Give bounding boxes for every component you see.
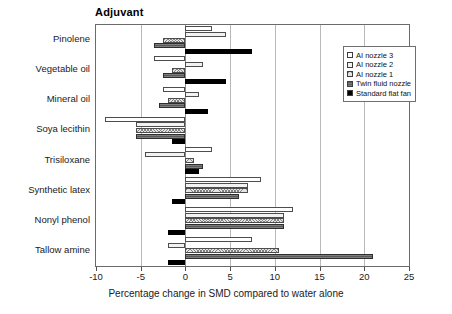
x-axis-tick-label: -10 [89, 271, 103, 282]
bar [185, 207, 292, 212]
chart-title: Adjuvant [95, 6, 144, 18]
bar [172, 68, 185, 73]
bar [185, 213, 283, 218]
legend-item: Standard flat fan [347, 89, 411, 98]
bar [136, 128, 185, 133]
legend: AI nozzle 3AI nozzle 2AI nozzle 1Twin fl… [343, 46, 416, 102]
bar [185, 32, 225, 37]
y-axis-label: Nonyl phenol [35, 214, 90, 225]
bar [185, 62, 203, 67]
bar [172, 199, 185, 204]
bar [185, 109, 207, 114]
x-axis-tick-label: 25 [404, 271, 415, 282]
bar [163, 73, 185, 78]
legend-item: AI nozzle 3 [347, 51, 411, 60]
legend-swatch-icon [347, 62, 353, 68]
bar [185, 177, 261, 182]
y-axis-label: Soya lecithin [36, 123, 90, 134]
bar [172, 139, 185, 144]
bar [154, 43, 185, 48]
legend-label: AI nozzle 2 [356, 60, 393, 69]
legend-swatch-icon [347, 71, 353, 77]
x-axis-tick-label: 0 [183, 271, 188, 282]
y-axis-label: Pinolene [53, 33, 90, 44]
x-axis-title: Percentage change in SMD compared to wat… [0, 288, 452, 299]
y-axis-label: Synthetic latex [28, 184, 90, 195]
x-axis: -10-50510152025 [95, 267, 410, 285]
bar [168, 243, 186, 248]
bar [185, 92, 198, 97]
x-axis-tick-label: 20 [359, 271, 370, 282]
bar [185, 79, 225, 84]
bar [168, 260, 186, 265]
bar [185, 224, 283, 229]
bar-group [96, 176, 409, 206]
bar-group [96, 236, 409, 266]
bar [185, 188, 248, 193]
chart-container: Adjuvant PinoleneVegetable oilMineral oi… [0, 0, 452, 314]
bar [163, 38, 185, 43]
x-axis-tick-label: 10 [270, 271, 281, 282]
x-axis-tick-label: -5 [136, 271, 144, 282]
legend-label: AI nozzle 3 [356, 51, 393, 60]
y-axis-labels: PinoleneVegetable oilMineral oilSoya lec… [0, 24, 90, 267]
bar [185, 237, 252, 242]
x-axis-tick-label: 15 [314, 271, 325, 282]
legend-swatch-icon [347, 90, 353, 96]
legend-swatch-icon [347, 81, 353, 87]
legend-label: Standard flat fan [356, 89, 411, 98]
bar [168, 230, 186, 235]
bar [185, 218, 283, 223]
legend-item: Twin fluid nozzle [347, 79, 411, 88]
legend-label: AI nozzle 1 [356, 70, 393, 79]
bar [136, 122, 185, 127]
bar [185, 248, 279, 253]
bar [185, 194, 239, 199]
bar [185, 254, 373, 259]
legend-swatch-icon [347, 52, 353, 58]
bar [154, 56, 185, 61]
bar-group [96, 115, 409, 145]
bar [145, 152, 185, 157]
x-axis-tick-label: 5 [227, 271, 232, 282]
bar [163, 87, 185, 92]
bar-group [96, 146, 409, 176]
y-axis-label: Mineral oil [47, 93, 90, 104]
legend-item: AI nozzle 2 [347, 60, 411, 69]
bar [185, 164, 203, 169]
y-axis-label: Tallow amine [35, 244, 90, 255]
bar [185, 147, 212, 152]
bar [105, 117, 185, 122]
legend-item: AI nozzle 1 [347, 70, 411, 79]
bar [185, 49, 252, 54]
bar-group [96, 206, 409, 236]
legend-label: Twin fluid nozzle [356, 79, 411, 88]
bar [185, 26, 212, 31]
bar [185, 158, 194, 163]
bar [185, 183, 248, 188]
bar [159, 103, 186, 108]
bar [168, 98, 186, 103]
bar [185, 169, 198, 174]
y-axis-label: Vegetable oil [36, 63, 90, 74]
y-axis-label: Trisiloxane [44, 154, 90, 165]
bar [136, 134, 185, 139]
